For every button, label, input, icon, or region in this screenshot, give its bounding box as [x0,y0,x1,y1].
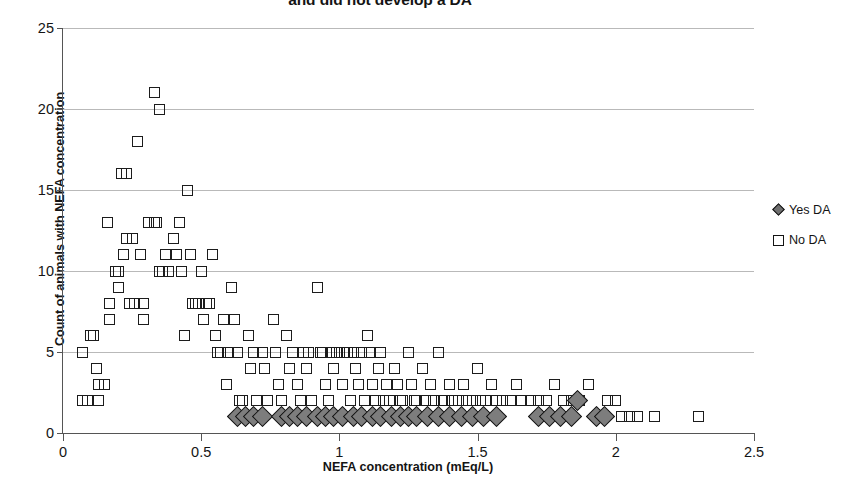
x-tick-label: 0.5 [191,444,211,460]
data-point-yes-da [586,406,607,427]
plot-area: 051015202500.511.522.5 [62,28,754,434]
data-point-no-da [93,379,104,390]
y-tick-label: 5 [46,344,54,360]
data-point-yes-da [362,406,383,427]
data-point-yes-da [323,406,344,427]
data-point-no-da [467,395,478,406]
x-axis-title: NEFA concentration (mEq/L) [62,460,754,474]
data-point-no-da [135,249,146,260]
data-point-no-da [88,330,99,341]
data-point-no-da [409,395,420,406]
x-tick-label: 0 [59,444,67,460]
data-point-no-da [367,379,378,390]
data-point-no-da [362,330,373,341]
x-tick-label: 1 [335,444,343,460]
data-point-yes-da [428,406,449,427]
data-point-no-da [151,217,162,228]
data-point-no-da [185,249,196,260]
data-point-no-da [558,395,569,406]
data-point-no-da [428,395,439,406]
data-point-no-da [262,395,273,406]
data-point-no-da [525,395,536,406]
data-point-no-da [425,379,436,390]
x-tick-mark [201,433,202,441]
data-point-no-da [458,379,469,390]
data-point-no-da [480,395,491,406]
data-point-no-da [301,363,312,374]
data-point-no-da [649,411,660,422]
data-point-yes-da [461,406,482,427]
x-tick-mark [478,433,479,441]
diamond-marker-icon [772,203,786,217]
data-point-yes-da [594,406,615,427]
legend-item-no-da[interactable]: No DA [772,225,831,255]
data-point-no-da [395,395,406,406]
data-point-no-da [237,395,248,406]
data-point-no-da [104,298,115,309]
data-point-no-da [505,395,516,406]
y-tick-mark [57,271,63,272]
y-tick-label: 25 [38,20,54,36]
data-point-yes-da [287,406,308,427]
data-point-yes-da [235,406,256,427]
data-point-no-da [491,395,502,406]
data-point-yes-da [251,406,272,427]
data-point-no-da [533,395,544,406]
y-tick-label: 0 [46,425,54,441]
data-point-no-da [295,395,306,406]
scatter-chart: and did not develop a DA Count of animal… [0,0,844,488]
data-point-yes-da [243,406,264,427]
data-point-yes-da [406,406,427,427]
data-point-no-da [610,395,621,406]
data-point-no-da [268,314,279,325]
x-tick-label: 1.5 [468,444,488,460]
data-point-no-da [632,411,643,422]
legend-item-yes-da[interactable]: Yes DA [772,195,831,225]
data-point-yes-da [307,406,328,427]
data-point-no-da [259,363,270,374]
data-point-no-da [549,379,560,390]
data-point-no-da [104,314,115,325]
data-point-no-da [583,379,594,390]
data-point-no-da [102,217,113,228]
data-point-no-da [389,363,400,374]
data-point-no-da [516,395,527,406]
data-point-no-da [472,363,483,374]
data-point-no-da [381,379,392,390]
data-point-yes-da [343,406,364,427]
data-point-yes-da [315,406,336,427]
gridline-y [63,109,754,110]
y-tick-label: 15 [38,182,54,198]
y-tick-label: 20 [38,101,54,117]
data-point-no-da [566,395,577,406]
data-point-yes-da [279,406,300,427]
x-tick-mark [63,433,64,441]
data-point-no-da [486,379,497,390]
gridline-y [63,28,754,29]
data-point-no-da [85,330,96,341]
x-tick-mark [339,433,340,441]
data-point-yes-da [528,406,549,427]
data-point-no-da [350,363,361,374]
data-point-no-da [328,363,339,374]
data-point-no-da [281,330,292,341]
data-point-no-da [284,363,295,374]
data-point-no-da [475,395,486,406]
data-point-no-da [226,282,237,293]
data-point-no-da [229,314,240,325]
data-point-no-da [411,395,422,406]
data-point-yes-da [370,406,391,427]
data-point-no-da [190,298,201,309]
data-point-yes-da [227,406,248,427]
data-point-yes-da [296,406,317,427]
data-point-yes-da [450,406,471,427]
y-tick-mark [57,190,63,191]
data-point-no-da [497,395,508,406]
gridline-y [63,190,754,191]
data-point-no-da [174,217,185,228]
data-point-no-da [320,379,331,390]
data-point-no-da [132,136,143,147]
data-point-no-da [370,395,381,406]
data-point-yes-da [271,406,292,427]
data-point-no-da [306,395,317,406]
